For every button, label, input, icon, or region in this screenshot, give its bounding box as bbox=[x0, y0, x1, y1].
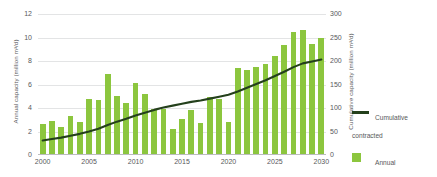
y-axis-left-tick-label: 2 bbox=[14, 128, 32, 135]
x-axis-tick-label: 2030 bbox=[306, 158, 336, 165]
y-axis-left-tick-label: 10 bbox=[14, 34, 32, 41]
plot-area bbox=[38, 14, 326, 155]
legend-label-line1: Annual bbox=[375, 159, 396, 166]
line-series-cumulative-contracted bbox=[38, 14, 326, 155]
y-axis-left-tick-label: 4 bbox=[14, 104, 32, 111]
y-axis-right-tick-label: 50 bbox=[330, 128, 350, 135]
chart-legend: Cumulative contracted Annual contracted bbox=[352, 106, 437, 177]
y-axis-left-tick-label: 12 bbox=[14, 10, 32, 17]
legend-item-label: Cumulative contracted bbox=[352, 114, 408, 139]
x-axis-tick-label: 2015 bbox=[167, 158, 197, 165]
x-axis-line bbox=[38, 154, 326, 155]
box-swatch-icon bbox=[352, 153, 361, 162]
x-axis-tick-label: 2020 bbox=[213, 158, 243, 165]
legend-label-line1: Cumulative bbox=[375, 114, 408, 121]
x-axis-tick-label: 2000 bbox=[28, 158, 58, 165]
legend-label-line2: contracted bbox=[352, 132, 383, 139]
line-swatch-icon bbox=[352, 111, 369, 114]
y-axis-right-tick-label: 150 bbox=[330, 81, 350, 88]
legend-item-cumulative-contracted: Cumulative contracted bbox=[352, 106, 437, 142]
y-axis-right-tick-label: 100 bbox=[330, 104, 350, 111]
y-axis-left-tick-label: 6 bbox=[14, 81, 32, 88]
chart-container: Annual capacity (million m³/d) Cumulativ… bbox=[0, 0, 437, 177]
x-axis-tick-label: 2010 bbox=[121, 158, 151, 165]
y-axis-right-tick-label: 200 bbox=[330, 57, 350, 64]
legend-item-annual-contracted: Annual contracted bbox=[352, 151, 437, 177]
x-axis-tick-label: 2025 bbox=[260, 158, 290, 165]
y-axis-right-tick-label: 0 bbox=[330, 151, 350, 158]
y-axis-left-tick-label: 8 bbox=[14, 57, 32, 64]
y-axis-right-tick-label: 250 bbox=[330, 34, 350, 41]
y-axis-right-tick-label: 300 bbox=[330, 10, 350, 17]
x-axis-tick-label: 2005 bbox=[74, 158, 104, 165]
y-axis-left-tick-label: 0 bbox=[14, 151, 32, 158]
